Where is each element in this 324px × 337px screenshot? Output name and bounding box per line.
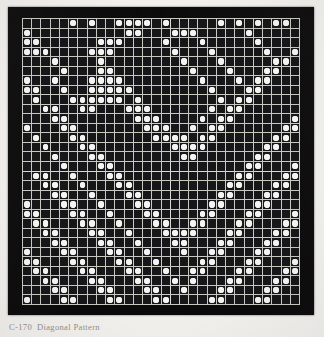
grid-cell [125, 172, 133, 181]
grid-cell [69, 57, 77, 66]
grid-cell [217, 133, 225, 142]
grid-cell [263, 219, 271, 228]
grid-cell [115, 162, 123, 171]
grid-cell [245, 38, 253, 47]
grid-cell [263, 181, 271, 190]
grid-cell [189, 86, 197, 95]
grid-cell [282, 143, 290, 152]
grid-cell [198, 229, 206, 238]
grid-cell [125, 229, 133, 238]
grid-cell [32, 38, 40, 47]
grid-cell [282, 172, 290, 181]
grid-cell [134, 219, 142, 228]
grid-cell [125, 200, 133, 209]
grid-cell [125, 248, 133, 257]
grid-cell [97, 124, 105, 133]
grid-cell [32, 295, 40, 304]
grid-cell [282, 267, 290, 276]
grid-cell [162, 238, 170, 247]
grid-cell [152, 114, 160, 123]
grid-cell [217, 95, 225, 104]
grid-cell [245, 276, 253, 285]
grid-cell [60, 181, 68, 190]
grid-cell [152, 257, 160, 266]
grid-cell [162, 257, 170, 266]
grid-cell [189, 48, 197, 57]
grid-cell [69, 257, 77, 266]
grid-cell [245, 133, 253, 142]
grid-cell [134, 229, 142, 238]
grid-cell [254, 219, 262, 228]
grid-cell [106, 248, 114, 257]
grid-cell [217, 276, 225, 285]
grid-cell [180, 219, 188, 228]
grid-cell [41, 295, 49, 304]
grid-cell [134, 19, 142, 28]
grid-cell [254, 76, 262, 85]
grid-cell [291, 19, 299, 28]
grid-cell [291, 162, 299, 171]
grid-cell [134, 172, 142, 181]
grid-cell [69, 86, 77, 95]
grid-cell [189, 114, 197, 123]
grid-cell [189, 57, 197, 66]
grid-cell [115, 48, 123, 57]
grid-cell [198, 133, 206, 142]
grid-cell [134, 267, 142, 276]
grid-cell [41, 286, 49, 295]
grid-cell [162, 191, 170, 200]
grid-cell [125, 105, 133, 114]
grid-cell [97, 38, 105, 47]
grid-cell [162, 114, 170, 123]
grid-cell [208, 286, 216, 295]
grid-cell [88, 276, 96, 285]
grid-cell [291, 38, 299, 47]
grid-cell [162, 267, 170, 276]
grid-cell [226, 143, 234, 152]
grid-cell [60, 238, 68, 247]
grid-cell [208, 95, 216, 104]
grid-cell [198, 38, 206, 47]
grid-cell [198, 29, 206, 38]
grid-cell [235, 152, 243, 161]
grid-cell [88, 143, 96, 152]
grid-cell [272, 286, 280, 295]
grid-cell [282, 124, 290, 133]
grid-cell [32, 124, 40, 133]
grid-cell [69, 200, 77, 209]
grid-cell [217, 257, 225, 266]
grid-cell [88, 67, 96, 76]
grid-cell [208, 57, 216, 66]
grid-cell [272, 172, 280, 181]
grid-cell [23, 29, 31, 38]
grid-cell [88, 124, 96, 133]
grid-cell [115, 19, 123, 28]
grid-cell [69, 276, 77, 285]
grid-cell [143, 210, 151, 219]
grid-cell [282, 95, 290, 104]
grid-cell [51, 162, 59, 171]
grid-cell [134, 152, 142, 161]
grid-cell [263, 57, 271, 66]
grid-cell [171, 248, 179, 257]
grid-cell [41, 238, 49, 247]
grid-cell [97, 200, 105, 209]
grid-cell [88, 238, 96, 247]
grid-cell [198, 238, 206, 247]
grid-cell [78, 162, 86, 171]
grid-cell [51, 200, 59, 209]
grid-cell [235, 238, 243, 247]
grid-cell [97, 48, 105, 57]
grid-cell [97, 267, 105, 276]
grid-cell [162, 219, 170, 228]
grid-cell [32, 105, 40, 114]
grid-cell [78, 257, 86, 266]
grid-cell [88, 152, 96, 161]
grid-cell [180, 38, 188, 47]
grid-cell [23, 295, 31, 304]
grid-cell [245, 286, 253, 295]
grid-cell [60, 210, 68, 219]
grid-cell [208, 219, 216, 228]
grid-cell [245, 267, 253, 276]
grid-cell [162, 248, 170, 257]
